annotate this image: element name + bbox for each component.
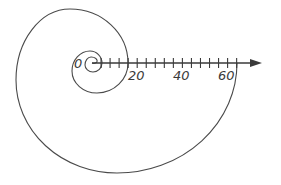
spiral-curve	[16, 9, 237, 173]
axis-arrow-icon	[250, 59, 262, 67]
axis-label-20: 20	[128, 69, 145, 82]
origin-label: 0	[74, 57, 82, 70]
spiral-diagram	[0, 0, 281, 185]
axis-label-60: 60	[218, 69, 235, 82]
axis-label-40: 40	[173, 69, 190, 82]
